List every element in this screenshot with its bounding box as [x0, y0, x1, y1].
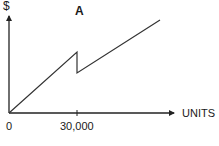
y-axis-label: $	[3, 0, 10, 12]
x-axis-label: UNITS	[182, 107, 215, 119]
origin-label: 0	[6, 120, 12, 132]
x-tick-label-30000: 30,000	[60, 120, 94, 132]
series-line-a	[9, 20, 160, 113]
chart-svg	[0, 0, 219, 146]
chart-title: A	[75, 5, 84, 17]
chart-container: $ A UNITS 0 30,000	[0, 0, 219, 146]
